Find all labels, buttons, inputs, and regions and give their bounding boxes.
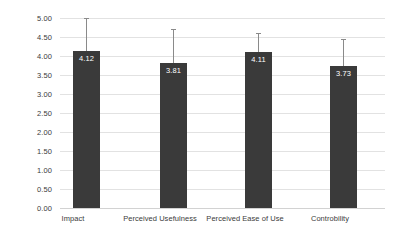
x-axis-tick-label-controbility: Controbility (280, 214, 380, 223)
bar-value-label: 4.11 (245, 55, 272, 64)
error-bar-cap (341, 39, 346, 40)
error-bar-cap (84, 18, 89, 19)
bar-perceived-ease-of-use[interactable]: 4.11 (245, 52, 272, 208)
gridline (60, 37, 385, 38)
error-bar (258, 33, 259, 52)
plot-area: 4.12 3.81 4.11 3.73 (60, 18, 385, 208)
error-bar-cap (171, 29, 176, 30)
bar-value-label: 3.81 (160, 66, 187, 75)
bar-value-label: 4.12 (73, 54, 100, 63)
error-bar (173, 29, 174, 64)
error-bar (343, 39, 344, 67)
bar-chart: 5.00 4.50 4.00 3.50 3.00 2.50 2.00 1.50 … (0, 0, 400, 243)
y-axis-tick-label: 4.00 (8, 52, 52, 61)
x-axis-tick-label-impact: Impact (23, 214, 123, 223)
y-axis-tick-label: 4.50 (8, 33, 52, 42)
bar-impact[interactable]: 4.12 (73, 51, 100, 208)
gridline (60, 56, 385, 57)
y-axis-tick-label: 3.00 (8, 90, 52, 99)
gridline (60, 18, 385, 19)
y-axis-tick-label: 2.50 (8, 109, 52, 118)
y-axis-tick-label: 0.00 (8, 204, 52, 213)
bar-controbility[interactable]: 3.73 (330, 66, 357, 208)
y-axis-tick-label: 1.50 (8, 147, 52, 156)
y-axis-tick-label: 3.50 (8, 71, 52, 80)
bar-perceived-usefulness[interactable]: 3.81 (160, 63, 187, 208)
error-bar-cap (256, 33, 261, 34)
y-axis-tick-label: 5.00 (8, 14, 52, 23)
y-axis-tick-label: 2.00 (8, 128, 52, 137)
error-bar (86, 18, 87, 51)
axis-baseline (60, 208, 385, 209)
y-axis-tick-label: 0.50 (8, 185, 52, 194)
bar-value-label: 3.73 (330, 69, 357, 78)
y-axis-tick-label: 1.00 (8, 166, 52, 175)
